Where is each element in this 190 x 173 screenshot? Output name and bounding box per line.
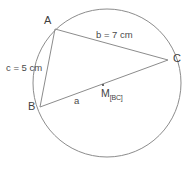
vertex-label-a: A [44, 15, 51, 26]
side-label-b: b = 7 cm [96, 30, 133, 40]
geometry-figure: A B C b = 7 cm c = 5 cm a M[BC] [0, 0, 190, 173]
midpoint-dot [102, 84, 104, 86]
geometry-canvas [0, 0, 190, 173]
side-label-c: c = 5 cm [6, 63, 42, 73]
side-label-a: a [74, 96, 79, 106]
segment-ab [40, 29, 55, 107]
vertex-label-b: B [28, 101, 35, 112]
vertex-label-c: C [173, 53, 181, 64]
midpoint-letter: M [101, 87, 110, 99]
midpoint-subscript: [BC] [110, 94, 123, 101]
midpoint-label: M[BC] [101, 88, 123, 101]
